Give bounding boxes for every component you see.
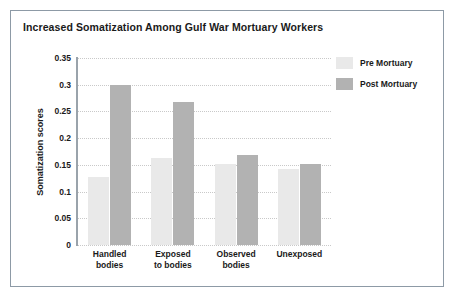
y-axis-tick-label: 0.15 — [54, 160, 71, 170]
bar-post — [173, 102, 194, 245]
chart-figure-frame: Increased Somatization Among Gulf War Mo… — [10, 10, 444, 287]
plot-area: 00.050.10.150.20.250.30.35 — [76, 58, 331, 245]
chart-legend: Pre MortuaryPost Mortuary — [336, 57, 417, 99]
legend-item: Post Mortuary — [336, 78, 417, 90]
y-axis-tick-label: 0 — [66, 240, 71, 250]
bar-post — [110, 85, 131, 245]
bar-group — [205, 58, 268, 245]
legend-label: Pre Mortuary — [360, 58, 412, 68]
category-label-line: to bodies — [141, 260, 204, 271]
category-label-line: bodies — [205, 260, 268, 271]
bar-pre — [88, 177, 109, 245]
y-axis-tick-label: 0.05 — [54, 213, 71, 223]
y-axis-tick-label: 0.25 — [54, 106, 71, 116]
x-axis-category-labels: HandledbodiesExposedto bodiesObservedbod… — [78, 249, 333, 289]
y-axis-tick-label: 0.35 — [54, 53, 71, 63]
bars-layer — [78, 58, 331, 245]
category-label-line: Observed — [205, 249, 268, 260]
y-axis-tick-label: 0.1 — [59, 187, 71, 197]
bar-group — [78, 58, 141, 245]
y-axis-title: Somatization scores — [33, 58, 47, 245]
category-label-line: bodies — [78, 260, 141, 271]
bar-group — [141, 58, 204, 245]
bar-pre — [215, 164, 236, 245]
legend-swatch-post — [336, 78, 353, 90]
legend-label: Post Mortuary — [360, 79, 417, 89]
category-label-line: Handled — [78, 249, 141, 260]
x-axis-category-label: Observedbodies — [205, 249, 268, 271]
gridline — [78, 245, 331, 246]
bar-post — [237, 155, 258, 245]
bar-pre — [278, 169, 299, 245]
chart-title: Increased Somatization Among Gulf War Mo… — [23, 21, 323, 33]
y-axis-tick-label: 0.3 — [59, 80, 71, 90]
y-axis-tick-label: 0.2 — [59, 133, 71, 143]
bar-post — [300, 164, 321, 245]
bar-group — [268, 58, 331, 245]
y-axis-title-label: Somatization scores — [35, 108, 45, 196]
category-label-line: Exposed — [141, 249, 204, 260]
bar-pre — [151, 158, 172, 245]
category-label-line: Unexposed — [268, 249, 331, 260]
legend-swatch-pre — [336, 57, 353, 69]
x-axis-category-label: Handledbodies — [78, 249, 141, 271]
legend-item: Pre Mortuary — [336, 57, 417, 69]
x-axis-category-label: Exposedto bodies — [141, 249, 204, 271]
x-axis-category-label: Unexposed — [268, 249, 331, 260]
